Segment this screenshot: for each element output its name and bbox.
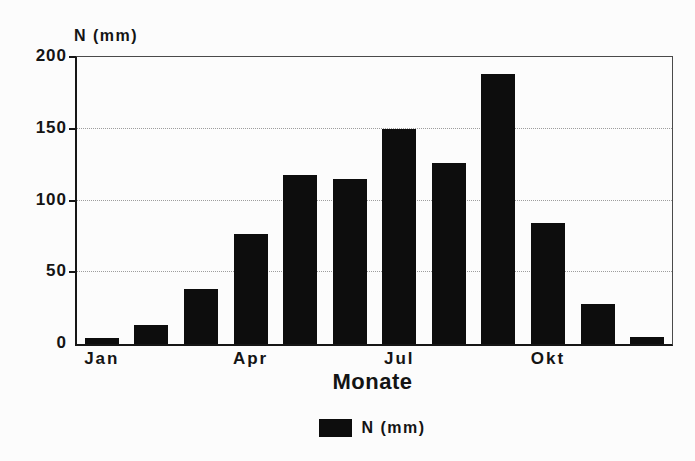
bar-10 [531,223,565,344]
y-tick-mark-100 [69,200,76,202]
legend: N (mm) [75,419,670,437]
x-tick-label-Jan: Jan [84,349,119,369]
y-axis-title: N (mm) [74,27,138,45]
legend-label: N (mm) [361,419,425,437]
gridline-50 [77,271,672,272]
gridline-150 [77,128,672,129]
gridline-100 [77,200,672,201]
bar-1 [85,338,119,344]
legend-color-swatch [319,419,352,437]
x-tick-label-Apr: Apr [233,349,268,369]
bar-9 [481,74,515,344]
y-tick-mark-50 [69,271,76,273]
y-tick-mark-200 [69,56,76,58]
bar-8 [432,163,466,344]
x-axis-title: Monate [75,369,670,395]
bar-4 [234,234,268,344]
y-tick-label-150: 150 [36,118,67,138]
x-tick-label-Jul: Jul [384,349,415,369]
x-axis-tick-labels: JanAprJulOkt [77,349,672,369]
x-tick-label-Okt: Okt [531,349,565,369]
y-tick-label-200: 200 [36,46,67,66]
bar-7 [382,129,416,344]
bar-2 [134,325,168,344]
y-tick-label-50: 50 [46,261,67,281]
bar-6 [333,179,367,344]
bar-3 [184,289,218,344]
bar-5 [283,175,317,344]
y-tick-label-0: 0 [57,333,67,353]
plot-area [75,56,673,346]
bar-11 [581,304,615,344]
y-tick-label-100: 100 [36,190,67,210]
bar-12 [630,337,664,344]
y-axis-tick-labels: 050100150200 [0,56,67,343]
precipitation-bar-chart: N (mm) 050100150200 JanAprJulOkt Monate … [0,0,695,461]
y-tick-mark-150 [69,128,76,130]
